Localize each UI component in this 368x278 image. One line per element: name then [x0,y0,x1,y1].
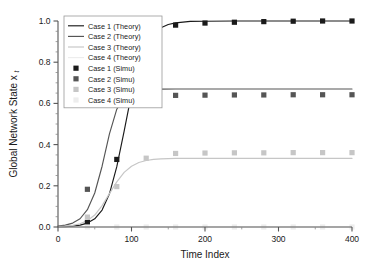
data-point-marker [349,18,354,23]
data-point-marker [291,92,296,97]
x-tick-label: 200 [198,234,212,244]
data-point-marker [261,92,266,97]
data-point-marker [349,150,354,155]
data-point-marker [173,23,178,28]
x-tick-label: 300 [271,234,285,244]
data-point-marker [202,150,207,155]
y-tick-label: 0.8 [39,57,51,67]
data-point-marker [349,92,354,97]
y-tick-label: 0.0 [39,222,51,232]
series-line [58,158,352,226]
data-point-marker [173,93,178,98]
data-point-marker [232,92,237,97]
chart-canvas: 0.00.20.40.60.81.00100200300400 Time Ind… [0,0,368,278]
chart-figure: 0.00.20.40.60.81.00100200300400 Time Ind… [0,0,368,278]
legend-label: Case 1 (Simu) [88,64,135,73]
data-point-marker [85,215,90,220]
data-point-marker [202,93,207,98]
legend-label: Case 4 (Theory) [88,53,141,62]
data-point-marker [85,187,90,192]
series-markers [85,150,355,220]
data-point-marker [291,19,296,24]
legend-label: Case 1 (Theory) [88,22,141,31]
y-tick-label: 0.6 [39,98,51,108]
y-tick-label: 1.0 [39,16,51,26]
y-axis-title: Global Network State x t [8,69,20,177]
data-point-marker [291,150,296,155]
y-tick-label: 0.2 [39,181,51,191]
legend-label: Case 3 (Simu) [88,85,135,94]
legend-label: Case 3 (Theory) [88,43,141,52]
x-tick-label: 100 [124,234,138,244]
data-point-marker [85,220,90,225]
data-point-marker [202,20,207,25]
x-tick-label: 0 [56,234,61,244]
chart-legend: Case 1 (Theory)Case 2 (Theory)Case 3 (Th… [64,16,162,108]
x-axis-title: Time Index [180,249,229,260]
x-tick-label: 400 [345,234,359,244]
data-point-marker [261,150,266,155]
legend-label: Case 4 (Simu) [88,96,135,105]
data-point-marker [114,184,119,189]
data-point-marker [320,150,325,155]
y-tick-label: 0.4 [39,140,51,150]
legend-label: Case 2 (Simu) [88,75,135,84]
legend-label: Case 2 (Theory) [88,32,141,41]
svg-text:Global Network State x t: Global Network State x t [8,69,20,177]
data-point-marker [320,92,325,97]
data-point-marker [144,156,149,161]
data-point-marker [261,19,266,24]
data-point-marker [232,20,237,25]
data-point-marker [320,18,325,23]
data-point-marker [232,150,237,155]
data-point-marker [173,151,178,156]
data-point-marker [114,157,119,162]
